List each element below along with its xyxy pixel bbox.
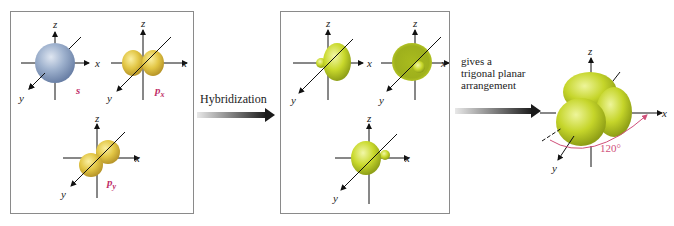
axis-label-y: y [107, 92, 112, 105]
axis-label-z: z [413, 17, 417, 30]
axis-label-y: y [291, 94, 296, 107]
label-line-2: trigonal planar [461, 67, 525, 79]
hybridization-label: Hybridization [200, 93, 267, 106]
angle-label: 120° [600, 142, 621, 155]
s-label: s [76, 84, 80, 97]
axis-label-y: y [19, 92, 24, 105]
axis-label-z: z [588, 45, 592, 58]
sp2-orbital-2 [381, 30, 449, 100]
hybrid-orbitals-panel: z x y z x y z x y [280, 11, 450, 214]
py-orbital [63, 124, 139, 198]
py-label: py [107, 176, 116, 193]
result-arrow-icon [455, 104, 543, 118]
atomic-orbitals-drawing [11, 12, 193, 213]
axis-label-z: z [367, 112, 371, 125]
px-label: px [155, 84, 165, 101]
axis-label-x: x [441, 57, 446, 70]
label-line-3: arrangement [461, 79, 525, 91]
axis-label-z: z [95, 112, 99, 125]
hybridization-arrow-icon [197, 108, 277, 122]
axis-label-y: y [61, 188, 66, 201]
label-line-1: gives a [461, 55, 525, 67]
axis-label-z: z [326, 17, 330, 30]
axis-label-y: y [379, 94, 384, 107]
sp2-orbital-1 [293, 30, 363, 100]
atomic-orbitals-panel: z x y s z x y px z x y py [10, 11, 194, 214]
axis-label-x: x [95, 57, 100, 70]
trigonal-planar-drawing [540, 0, 674, 226]
axis-label-z: z [141, 17, 145, 30]
axis-label-y: y [552, 162, 557, 175]
axis-label-x: x [135, 152, 140, 165]
axis-label-z: z [53, 18, 57, 31]
axis-label-x: x [367, 57, 372, 70]
sp2-orbital-3 [335, 124, 409, 204]
trigonal-planar-label: gives a trigonal planar arrangement [461, 55, 525, 91]
axis-label-x: x [182, 57, 187, 70]
hybrid-orbitals-drawing [281, 12, 449, 213]
axis-label-y: y [333, 192, 338, 205]
px-orbital [111, 30, 187, 100]
axis-label-x: x [405, 152, 410, 165]
axis-label-x: x [662, 107, 667, 120]
